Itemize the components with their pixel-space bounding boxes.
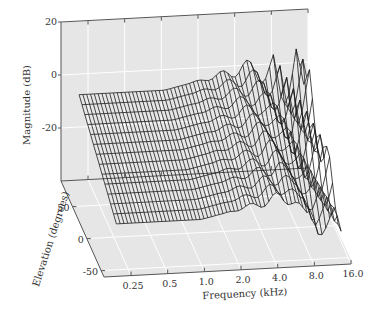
surface-chart: 200-200.250.51.02.04.08.016.0500-50 Magn… — [0, 0, 384, 313]
x-axis-label: Frequency (kHz) — [202, 286, 288, 301]
z-tick-label: -20 — [42, 122, 57, 133]
x-tick-label: 2.0 — [235, 274, 250, 285]
y-tick-label: -50 — [83, 266, 98, 277]
z-tick-label: 0 — [51, 69, 57, 80]
y-tick-label: 0 — [78, 234, 84, 245]
x-tick-label: 0.25 — [122, 280, 143, 291]
x-tick-label: 8.0 — [309, 270, 324, 281]
x-tick-label: 4.0 — [272, 272, 287, 283]
x-tick-label: 1.0 — [199, 276, 214, 287]
z-tick-label: 20 — [45, 16, 57, 27]
y-axis-label: Elevation (degrees) — [30, 190, 71, 288]
x-tick-label: 0.5 — [162, 278, 177, 289]
z-axis-label: Magnitude (dB) — [21, 65, 32, 145]
x-tick-label: 16.0 — [342, 268, 363, 279]
